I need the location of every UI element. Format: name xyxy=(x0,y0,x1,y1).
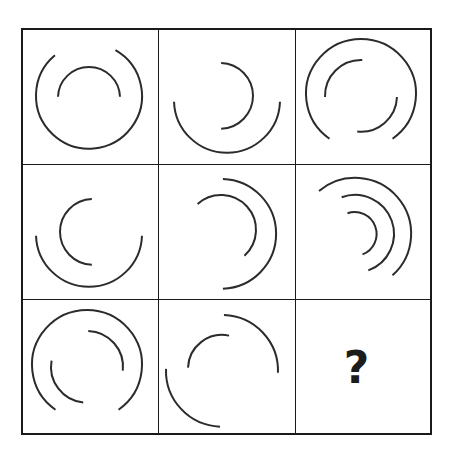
grid-cell-row2-col1[interactable] xyxy=(21,164,158,300)
arc-group-row2-col3 xyxy=(295,164,432,300)
arc-group-row2-col2 xyxy=(158,164,295,300)
grid-cell-row3-col3[interactable]: ? xyxy=(295,299,432,435)
inner-arc-upper xyxy=(325,60,362,97)
arc-group-row1-col2 xyxy=(158,28,295,164)
grid-cell-row3-col2[interactable] xyxy=(158,299,295,435)
inner-arc-lower xyxy=(357,97,397,132)
outer-arc xyxy=(319,178,411,275)
arc-group-row3-col2 xyxy=(158,299,295,435)
matrix-grid: ? xyxy=(21,28,432,435)
outer-arc xyxy=(32,310,142,410)
inner-arc xyxy=(58,67,120,97)
inner-arc-upper xyxy=(88,331,123,371)
grid-cell-row1-col2[interactable] xyxy=(158,28,295,164)
grid-cell-row1-col3[interactable] xyxy=(295,28,432,164)
inner-arc xyxy=(198,195,256,256)
outer-arc xyxy=(36,50,142,149)
arc-group-row2-col1 xyxy=(21,164,158,300)
puzzle-root: ? xyxy=(0,0,453,461)
grid-cell-row2-col2[interactable] xyxy=(158,164,295,300)
inner-arc-lower xyxy=(51,361,83,403)
cell-layer: ? xyxy=(21,28,432,435)
outer-arc xyxy=(36,235,142,286)
outer-arc-top xyxy=(224,315,278,373)
arc-group-row1-col1 xyxy=(21,28,158,164)
arc-group-row1-col3 xyxy=(295,28,432,164)
grid-cell-row1-col1[interactable] xyxy=(21,28,158,164)
inner-arc xyxy=(188,335,229,368)
arc-group-row3-col1 xyxy=(21,299,158,435)
inner-arc xyxy=(347,212,376,254)
missing-cell-question-mark: ? xyxy=(344,346,370,390)
grid-cell-row3-col1[interactable] xyxy=(21,299,158,435)
inner-arc xyxy=(60,199,92,265)
outer-arc-bottom xyxy=(166,369,220,427)
grid-cell-row2-col3[interactable] xyxy=(295,164,432,300)
middle-arc xyxy=(342,195,394,270)
inner-arc xyxy=(221,63,253,129)
outer-arc xyxy=(306,39,416,139)
